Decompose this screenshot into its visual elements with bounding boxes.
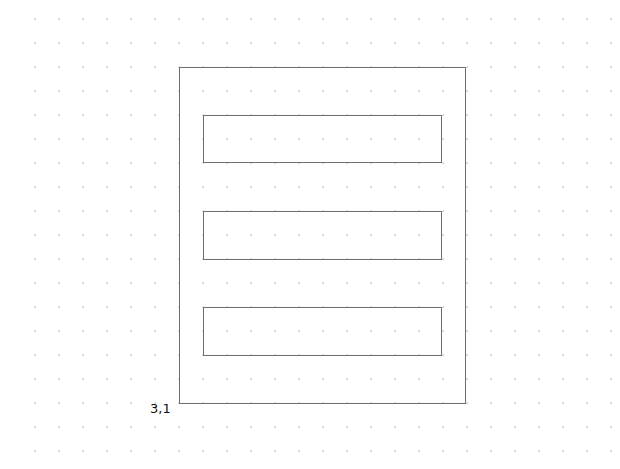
origin-coordinate-label: 3,1 [150,402,171,415]
grid-dots [35,19,612,452]
grid-drawing [0,0,620,469]
drawing-canvas[interactable]: 3,1 [0,0,620,469]
